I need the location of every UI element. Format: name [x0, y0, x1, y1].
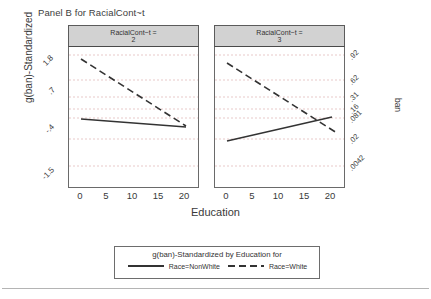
- plot-svg-left: [69, 47, 198, 187]
- x-tick-left-2: 10: [121, 190, 143, 201]
- series-line-nonwhite-right: [227, 117, 332, 141]
- legend-label-white: Race=White: [269, 263, 307, 270]
- gridlines-left: [69, 55, 198, 166]
- x-tick-right-2: 10: [267, 190, 289, 201]
- series-line-white-right: [227, 63, 337, 133]
- panel-strip-right-line2: 3: [278, 36, 282, 43]
- series-line-nonwhite-left: [81, 119, 186, 127]
- series-line-white-left: [81, 59, 186, 126]
- plot-area: RacialCont~t = 2: [68, 25, 345, 188]
- legend-label-nonwhite: Race=NonWhite: [169, 263, 220, 270]
- legend-entries: Race=NonWhite Race=White: [115, 262, 319, 270]
- y-tick-left-3: -1.5: [26, 165, 56, 195]
- x-axis-title: Education: [0, 206, 431, 218]
- footer-divider: [2, 288, 429, 289]
- x-tick-right-3: 15: [293, 190, 315, 201]
- legend: g(ban)-Standardized by Education for Rac…: [114, 246, 320, 279]
- plot-canvas-right: [214, 47, 345, 188]
- panel-strip-left-line1: RacialCont~t =: [110, 29, 156, 36]
- y-tick-right-1: .62: [347, 73, 361, 87]
- y-axis-title-left: g(ban)-Standardized: [23, 0, 34, 128]
- x-tick-left-4: 20: [173, 190, 195, 201]
- x-tick-right-0: 0: [215, 190, 237, 201]
- panel-strip-left-line2: 2: [132, 36, 136, 43]
- panel-strip-left: RacialCont~t = 2: [68, 25, 199, 47]
- panel-strip-right-line1: RacialCont~t =: [256, 29, 302, 36]
- y-tick-right-0: .92: [347, 48, 361, 62]
- y-tick-right-6: .0042: [347, 153, 367, 173]
- x-tick-left-1: 5: [95, 190, 117, 201]
- page-title: Panel B for RacialCont~t: [38, 7, 145, 18]
- y-axis-title-right: ban: [393, 75, 403, 135]
- legend-entry-nonwhite: Race=NonWhite: [127, 262, 220, 270]
- x-tick-left-3: 15: [147, 190, 169, 201]
- subpanel-racialcont-2: RacialCont~t = 2: [68, 25, 199, 188]
- gridlines-right: [215, 55, 344, 166]
- legend-key-dashed-icon: [227, 262, 265, 270]
- legend-key-solid-icon: [127, 262, 165, 270]
- panel-strip-right: RacialCont~t = 3: [214, 25, 345, 47]
- subpanel-racialcont-3: RacialCont~t = 3: [214, 25, 345, 188]
- figure-root: Panel B for RacialCont~t RacialCont~t = …: [0, 0, 431, 299]
- legend-title: g(ban)-Standardized by Education for: [115, 250, 319, 259]
- plot-canvas-left: [68, 47, 199, 188]
- x-tick-right-4: 20: [319, 190, 341, 201]
- x-tick-left-0: 0: [69, 190, 91, 201]
- y-tick-right-5: .02: [347, 132, 361, 146]
- x-tick-right-1: 5: [241, 190, 263, 201]
- y-tick-left-1: .7: [31, 85, 57, 111]
- plot-svg-right: [215, 47, 344, 187]
- legend-entry-white: Race=White: [227, 262, 307, 270]
